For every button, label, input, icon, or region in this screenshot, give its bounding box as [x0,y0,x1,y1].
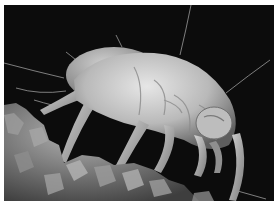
micrograph-photo [4,5,274,201]
dust-mite-illustration [4,5,274,201]
mite-head [196,107,232,139]
